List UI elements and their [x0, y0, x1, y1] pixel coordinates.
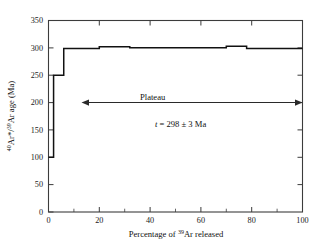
- x-ticklabel-20: 20: [95, 216, 103, 225]
- y-ticklabel-350: 350: [31, 16, 43, 25]
- svg-text:40Ar*/39Ar age (Ma): 40Ar*/39Ar age (Ma): [6, 81, 16, 151]
- x-tick-labels: 0 20 40 60 80 100: [46, 216, 308, 225]
- plateau-arrow-head-left: [82, 99, 90, 105]
- y-axis-title-part1: Ar*/: [6, 129, 16, 145]
- svg-text:Percentage of 39Ar released: Percentage of 39Ar released: [129, 229, 224, 239]
- x-axis-title-suffix: released: [193, 229, 224, 239]
- plateau-extent-arrow: [82, 99, 303, 105]
- chart-canvas: 0 50 100 150 200 250 300 350 0 20 40 60 …: [0, 0, 328, 241]
- plot-border: [49, 21, 303, 213]
- x-ticklabel-0: 0: [46, 216, 50, 225]
- x-axis-title-prefix: Percentage of: [129, 229, 178, 239]
- y-ticklabel-150: 150: [31, 126, 43, 135]
- ar-ar-age-spectrum-figure: 0 50 100 150 200 250 300 350 0 20 40 60 …: [0, 0, 328, 241]
- x-ticklabel-80: 80: [248, 216, 256, 225]
- x-ticklabel-40: 40: [146, 216, 154, 225]
- y-ticklabel-200: 200: [31, 98, 43, 107]
- y-ticklabel-100: 100: [31, 153, 43, 162]
- x-ticklabel-60: 60: [197, 216, 205, 225]
- x-axis-ticks-top: [99, 21, 251, 26]
- y-ticklabel-0: 0: [39, 208, 43, 217]
- x-axis-title-element: Ar: [184, 229, 193, 239]
- y-axis-title-part2: Ar age (Ma): [6, 81, 16, 124]
- plot-frame: [49, 21, 303, 213]
- y-axis-ticks-right: [298, 48, 303, 185]
- plateau-label: Plateau: [140, 92, 166, 102]
- age-result-value: = 298 ± 3 Ma: [157, 119, 206, 129]
- x-ticklabel-100: 100: [296, 216, 308, 225]
- x-axis-ticks: [49, 207, 303, 212]
- plateau-arrow-head-right: [295, 99, 303, 105]
- y-ticklabel-300: 300: [31, 44, 43, 53]
- y-axis-ticks: [49, 21, 54, 213]
- y-ticklabel-50: 50: [35, 180, 43, 189]
- x-axis-title: Percentage of 39Ar released: [129, 229, 224, 239]
- y-axis-title: 40Ar*/39Ar age (Ma): [6, 81, 16, 151]
- y-ticklabel-250: 250: [31, 71, 43, 80]
- age-result-annotation: t = 298 ± 3 Ma: [155, 119, 207, 129]
- svg-text:t = 298 ± 3 Ma: t = 298 ± 3 Ma: [155, 119, 207, 129]
- y-tick-labels: 0 50 100 150 200 250 300 350: [31, 16, 43, 217]
